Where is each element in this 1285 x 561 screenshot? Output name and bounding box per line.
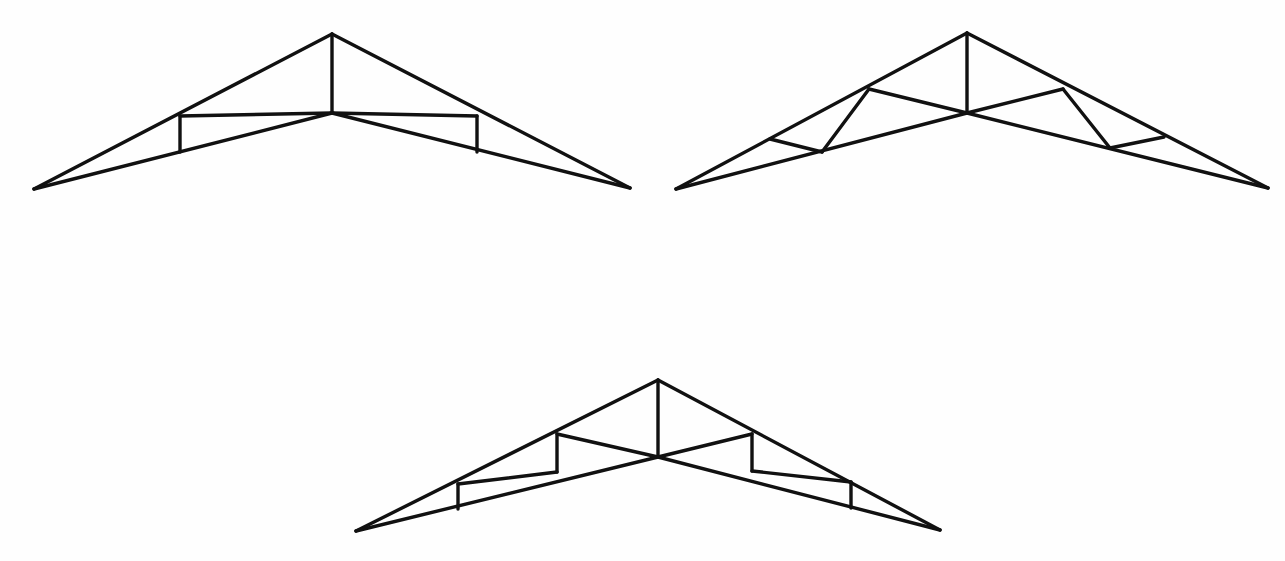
truss-diagram-canvas: [0, 0, 1285, 561]
diagram-background: [0, 0, 1285, 561]
truss-diagram: [0, 0, 1285, 561]
